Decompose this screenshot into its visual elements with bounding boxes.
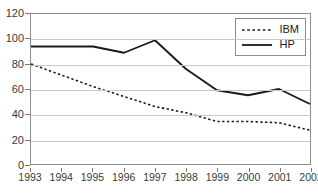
x-tick-mark [30, 168, 31, 172]
x-tick-label: 1994 [50, 172, 73, 183]
legend-dotted-line-icon [241, 25, 273, 35]
x-tick-label: 1998 [174, 172, 197, 183]
x-tick-label: 1997 [143, 172, 166, 183]
line-chart: 020406080100120 IBM HP 1 [0, 0, 318, 193]
y-tick-label: 20 [12, 134, 24, 145]
gridline [31, 39, 310, 40]
x-tick-mark [217, 168, 218, 172]
y-tick-label: 120 [6, 8, 24, 19]
x-tick-mark [311, 168, 312, 172]
y-axis: 020406080100120 [0, 0, 30, 193]
gridline [31, 115, 310, 116]
x-tick-label: 1996 [112, 172, 135, 183]
x-tick-label: 1995 [81, 172, 104, 183]
y-tick-mark [25, 165, 30, 166]
x-tick-label: 1999 [206, 172, 229, 183]
x-tick-mark [61, 168, 62, 172]
y-tick-label: 40 [12, 109, 24, 120]
y-tick-label: 80 [12, 58, 24, 69]
x-tick-mark [280, 168, 281, 172]
x-axis: 1993199419951996199719981999200020012002 [30, 168, 311, 193]
plot-area: IBM HP [30, 13, 311, 165]
x-tick-mark [249, 168, 250, 172]
x-tick-mark [186, 168, 187, 172]
legend-label-ibm: IBM [279, 24, 299, 35]
x-tick-mark [124, 168, 125, 172]
gridline [31, 90, 310, 91]
legend-solid-line-icon [241, 40, 273, 50]
legend-label-hp: HP [279, 39, 294, 50]
legend: IBM HP [235, 18, 306, 56]
x-tick-mark [155, 168, 156, 172]
y-tick-label: 0 [18, 160, 24, 171]
x-tick-label: 1993 [18, 172, 41, 183]
x-tick-label: 2002 [299, 172, 318, 183]
x-tick-label: 2001 [268, 172, 291, 183]
x-tick-mark [92, 168, 93, 172]
y-tick-label: 60 [12, 84, 24, 95]
gridline [31, 141, 310, 142]
gridline [31, 65, 310, 66]
legend-item-ibm: IBM [241, 22, 299, 37]
series-line-ibm [31, 64, 310, 130]
x-tick-label: 2000 [237, 172, 260, 183]
y-tick-label: 100 [6, 33, 24, 44]
